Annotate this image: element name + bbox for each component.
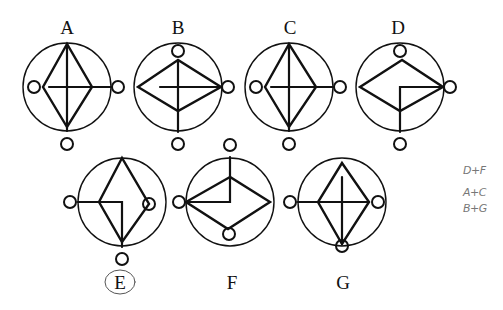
- figure-label-f: F: [227, 273, 238, 292]
- small-circle-bottom: [116, 253, 128, 265]
- diamond-shape: [265, 44, 316, 127]
- figure-label-c: C: [284, 18, 297, 37]
- small-circle-bottom: [394, 138, 406, 150]
- small-circle-left: [173, 196, 185, 208]
- puzzle-canvas: [0, 0, 503, 310]
- small-circle-bottom: [283, 138, 295, 150]
- note-line-1: D+F: [463, 160, 487, 182]
- figure-e: [64, 158, 166, 265]
- small-circle-left: [64, 196, 76, 208]
- small-circle-top: [172, 45, 184, 57]
- small-circle-right-inner: [372, 196, 384, 208]
- diamond-shape: [360, 60, 443, 111]
- figure-label-g: G: [336, 273, 350, 292]
- small-circle-right: [112, 81, 124, 93]
- figure-label-d: D: [391, 18, 405, 37]
- diamond-shape: [318, 163, 369, 244]
- figure-d: [356, 43, 456, 150]
- small-circle-left: [28, 81, 40, 93]
- figure-f: [173, 139, 274, 246]
- small-circle-right: [222, 81, 234, 93]
- figure-label-a: A: [60, 18, 74, 37]
- figure-g: [284, 158, 386, 252]
- small-circle-top: [394, 45, 406, 57]
- figure-a: [23, 43, 124, 150]
- diamond-shape: [99, 158, 149, 242]
- small-circle-left: [250, 81, 262, 93]
- figure-label-b: B: [172, 18, 185, 37]
- figure-b: [134, 43, 234, 150]
- diamond-shape: [138, 60, 221, 111]
- small-circle-bottom: [61, 138, 73, 150]
- small-circle-bottom: [172, 138, 184, 150]
- note-line-3: B+G: [463, 198, 487, 220]
- figure-c: [245, 43, 346, 150]
- small-circle-right: [334, 81, 346, 93]
- small-circle-bottom-inner: [223, 228, 235, 240]
- small-circle-left: [284, 196, 296, 208]
- handwritten-notes: D+F A+C B+G: [463, 160, 487, 220]
- figure-label-e: E: [114, 273, 126, 292]
- small-circle-top: [224, 139, 236, 151]
- small-circle-right: [444, 81, 456, 93]
